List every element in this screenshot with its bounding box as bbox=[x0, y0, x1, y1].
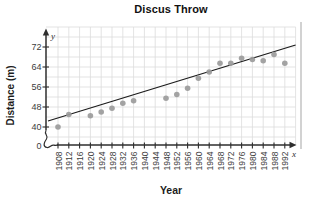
data-point bbox=[217, 60, 223, 66]
data-point bbox=[196, 75, 202, 81]
data-point bbox=[260, 58, 266, 64]
axis-break-squiggle bbox=[44, 131, 58, 148]
x-tick-label: 1944 bbox=[151, 151, 161, 170]
data-point bbox=[239, 55, 245, 61]
x-tick-label: 1960 bbox=[194, 151, 204, 170]
x-tick-label: 1940 bbox=[140, 151, 150, 170]
data-point bbox=[271, 52, 277, 58]
x-tick-label: 1976 bbox=[237, 151, 247, 170]
chart-title: Discus Throw bbox=[50, 3, 292, 15]
data-point bbox=[185, 85, 191, 91]
data-point bbox=[206, 69, 212, 75]
x-tick-label: 1932 bbox=[118, 151, 128, 170]
x-tick-label: 1928 bbox=[108, 151, 118, 170]
x-tick-label: 1964 bbox=[205, 151, 215, 170]
x-axis-letter: x bbox=[291, 149, 296, 159]
x-tick-label: 1912 bbox=[64, 151, 74, 170]
y-tick-label: 56 bbox=[31, 82, 41, 92]
y-axis-arrow bbox=[43, 29, 49, 36]
x-tick-label: 1956 bbox=[183, 151, 193, 170]
y-tick-label: 48 bbox=[31, 102, 41, 112]
x-tick-label: 1936 bbox=[129, 151, 139, 170]
data-point bbox=[66, 112, 72, 118]
x-tick-label: 1984 bbox=[259, 151, 269, 170]
x-tick-label: 1920 bbox=[86, 151, 96, 170]
y-axis-letter: y bbox=[50, 31, 55, 41]
x-tick-label: 1916 bbox=[75, 151, 85, 170]
origin-label: 0 bbox=[36, 141, 41, 151]
discus-throw-figure: yx40485664720190819121916192019241928193… bbox=[0, 0, 311, 199]
data-point bbox=[228, 60, 234, 66]
x-tick-label: 1972 bbox=[226, 151, 236, 170]
data-point bbox=[282, 60, 288, 66]
x-tick-label: 1968 bbox=[216, 151, 226, 170]
y-tick-label: 40 bbox=[31, 122, 41, 132]
x-tick-label: 1908 bbox=[54, 151, 64, 170]
data-point bbox=[109, 105, 115, 111]
x-tick-label: 1924 bbox=[97, 151, 107, 170]
data-point bbox=[250, 57, 256, 63]
x-tick-label: 1988 bbox=[270, 151, 280, 170]
y-tick-label: 72 bbox=[31, 42, 41, 52]
x-tick-label: 1948 bbox=[162, 151, 172, 170]
data-point bbox=[88, 113, 94, 119]
page-edge-strip bbox=[300, 22, 302, 149]
trend-line bbox=[48, 45, 296, 121]
x-axis-title: Year bbox=[46, 184, 296, 196]
data-point bbox=[98, 109, 104, 115]
x-tick-label: 1992 bbox=[280, 151, 290, 170]
data-point bbox=[163, 95, 169, 101]
y-axis-title: Distance (m) bbox=[5, 46, 18, 146]
y-tick-label: 64 bbox=[31, 62, 41, 72]
data-point bbox=[131, 98, 137, 104]
scatter-plot: yx40485664720190819121916192019241928193… bbox=[0, 0, 311, 199]
data-point bbox=[120, 100, 126, 106]
x-tick-label: 1980 bbox=[248, 151, 258, 170]
data-point bbox=[55, 124, 61, 130]
x-tick-label: 1952 bbox=[172, 151, 182, 170]
data-point bbox=[174, 92, 180, 98]
